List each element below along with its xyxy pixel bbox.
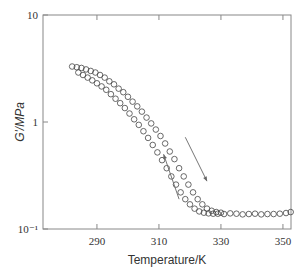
data-point	[145, 135, 151, 141]
x-tick-label: 330	[213, 235, 230, 247]
data-point	[277, 211, 283, 217]
data-point	[108, 91, 114, 97]
data-point	[176, 165, 182, 171]
data-point	[148, 121, 154, 127]
data-point	[102, 75, 108, 81]
x-axis-label: Temperature/K	[128, 253, 207, 267]
data-point	[139, 109, 145, 115]
data-point	[246, 211, 252, 217]
data-point	[122, 105, 128, 111]
y-tick-label: 10	[27, 9, 39, 21]
data-point	[200, 202, 206, 208]
data-point	[131, 116, 137, 122]
data-point	[227, 211, 233, 217]
data-point	[240, 212, 246, 218]
data-points	[69, 64, 293, 217]
data-point	[162, 141, 168, 147]
arrow-head-icon	[163, 154, 167, 159]
x-ticks: 290310330350	[89, 15, 292, 247]
data-point	[153, 127, 159, 133]
plot-frame	[43, 15, 291, 229]
data-point	[103, 87, 109, 93]
data-point	[127, 111, 133, 117]
data-point	[172, 156, 178, 162]
data-point	[144, 115, 150, 121]
data-point	[181, 174, 187, 180]
data-point	[134, 104, 140, 110]
x-tick-label: 290	[89, 235, 106, 247]
data-point	[167, 149, 173, 155]
data-point	[150, 142, 156, 148]
data-point	[155, 150, 161, 156]
arrow-line	[185, 137, 207, 181]
data-point	[130, 99, 136, 105]
data-point	[120, 89, 126, 95]
data-point	[111, 82, 117, 88]
data-point	[258, 212, 264, 218]
y-axis-label: G'/MPa	[13, 102, 27, 142]
x-tick-label: 310	[151, 235, 168, 247]
data-point	[271, 211, 277, 217]
data-point	[113, 96, 119, 102]
data-point	[136, 122, 142, 128]
x-tick-label: 350	[275, 235, 292, 247]
y-tick-label: 10⁻¹	[18, 223, 38, 235]
data-point	[252, 211, 258, 217]
data-point	[125, 94, 131, 100]
data-point	[265, 211, 271, 217]
data-point	[141, 128, 147, 134]
y-tick-label: 1	[33, 116, 39, 128]
chart: 290310330350 10110⁻¹ Temperature/K G'/MP…	[0, 0, 307, 276]
data-point	[158, 133, 164, 139]
data-point	[190, 190, 196, 196]
data-point	[234, 211, 240, 217]
data-point	[178, 190, 184, 196]
data-point	[187, 202, 193, 208]
data-point	[117, 100, 123, 106]
data-point	[182, 196, 188, 202]
data-point	[195, 196, 201, 202]
data-point	[186, 182, 192, 188]
